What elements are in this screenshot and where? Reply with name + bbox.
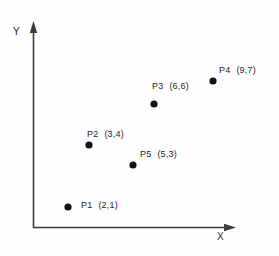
point-label-p3-name: P3 bbox=[152, 81, 163, 91]
scatter-plot-figure: P1(2,1) P2(3,4) P3(6,6) P4(9,7) P5(5,3) … bbox=[0, 0, 279, 256]
data-point-p4[interactable] bbox=[209, 77, 216, 84]
x-axis-label: X bbox=[217, 231, 224, 242]
point-label-p5-coords: (5,3) bbox=[157, 149, 177, 159]
point-label-p2-name: P2 bbox=[87, 129, 98, 139]
point-label-p4-coords: (9,7) bbox=[236, 65, 256, 75]
point-label-p3-coords: (6,6) bbox=[169, 81, 189, 91]
data-point-p2[interactable] bbox=[85, 141, 92, 148]
point-label-p1: P1(2,1) bbox=[81, 200, 118, 210]
point-label-p2: P2(3,4) bbox=[87, 129, 124, 139]
point-label-p1-name: P1 bbox=[81, 200, 92, 210]
plot-canvas bbox=[0, 0, 279, 256]
y-axis-arrowhead bbox=[30, 21, 37, 33]
y-axis-label: Y bbox=[13, 26, 20, 37]
data-point-p3[interactable] bbox=[150, 100, 157, 107]
point-label-p4: P4(9,7) bbox=[219, 65, 256, 75]
point-label-p1-coords: (2,1) bbox=[98, 200, 118, 210]
data-point-p1[interactable] bbox=[64, 203, 71, 210]
point-label-p4-name: P4 bbox=[219, 65, 230, 75]
point-label-p2-coords: (3,4) bbox=[104, 129, 124, 139]
x-axis-arrowhead bbox=[224, 224, 236, 231]
point-label-p5-name: P5 bbox=[140, 149, 151, 159]
point-label-p3: P3(6,6) bbox=[152, 81, 189, 91]
point-label-p5: P5(5,3) bbox=[140, 149, 177, 159]
data-point-p5[interactable] bbox=[129, 161, 136, 168]
